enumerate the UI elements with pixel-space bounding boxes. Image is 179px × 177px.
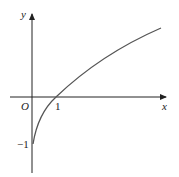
y-axis-label: y: [20, 8, 26, 20]
origin-label: O: [21, 100, 29, 112]
x-axis-label: x: [161, 100, 167, 112]
function-graph: y x O 1 −1: [0, 0, 179, 177]
y-tick-neg-one: −1: [17, 138, 29, 150]
function-curve: [33, 28, 161, 144]
x-tick-one: 1: [55, 100, 61, 112]
